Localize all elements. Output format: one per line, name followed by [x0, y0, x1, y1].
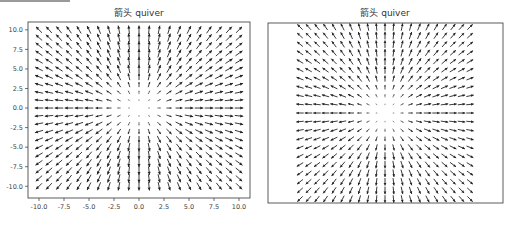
quiver-arrow [225, 99, 233, 102]
quiver-arrow [138, 115, 139, 117]
quiver-arrow [332, 179, 337, 185]
quiver-arrow [313, 103, 320, 106]
quiver-arrow [315, 24, 320, 30]
quiver-arrow [314, 162, 320, 167]
quiver-arrow [215, 137, 223, 141]
quiver-arrow [459, 188, 464, 193]
quiver-arrow [375, 161, 378, 168]
quiver-arrow [148, 73, 150, 80]
quiver-arrow [167, 65, 171, 72]
quiver-arrow [425, 50, 429, 56]
quiver-arrow [55, 115, 63, 118]
quiver-arrow [296, 103, 303, 106]
quiver-arrow [206, 58, 212, 64]
quiver-arrow [148, 166, 151, 174]
arrow-head [230, 122, 233, 125]
quiver-arrow [409, 67, 413, 73]
arrow-head [137, 148, 140, 151]
quiver-arrow [45, 122, 53, 125]
arrow-head [358, 32, 361, 35]
quiver-arrow [117, 166, 120, 174]
quiver-arrow [358, 49, 361, 56]
quiver-arrow [235, 83, 243, 86]
quiver-arrow [409, 170, 412, 177]
quiver-arrow [177, 50, 181, 57]
quiver-arrow [416, 76, 421, 81]
quiver-arrow [305, 77, 312, 80]
quiver-arrow [408, 129, 413, 132]
quiver-arrow [348, 76, 353, 81]
arrow-head [313, 112, 316, 115]
quiver-arrow [366, 153, 369, 160]
quiver-arrow [384, 178, 387, 186]
quiver-arrow [450, 171, 456, 176]
quiver-arrow [236, 160, 243, 165]
quiver-arrow [306, 171, 312, 176]
arrow-head [437, 94, 440, 97]
quiver-arrow [358, 58, 361, 65]
arrow-head [401, 58, 404, 61]
quiver-arrow [86, 58, 91, 65]
quiver-arrow [36, 51, 43, 56]
arrow-head [137, 164, 140, 167]
arrow-head [107, 34, 110, 37]
quiver-arrow [449, 103, 456, 106]
quiver-arrow [466, 103, 473, 106]
quiver-arrow [86, 137, 93, 142]
quiver-arrow [426, 179, 430, 185]
quiver-arrow [467, 59, 473, 63]
quiver-arrow [195, 83, 203, 87]
quiver-arrow [296, 138, 303, 141]
quiver-arrow [96, 74, 102, 80]
arrow-head [420, 112, 422, 114]
quiver-arrow [86, 144, 92, 150]
quiver-arrow [137, 174, 140, 183]
right-arrow-field [296, 23, 474, 203]
quiver-arrow [449, 94, 456, 97]
quiver-arrow [128, 122, 130, 125]
arrow-head [35, 99, 38, 102]
quiver-arrow [409, 32, 412, 39]
quiver-arrow [157, 122, 160, 125]
arrow-head [85, 115, 88, 118]
quiver-arrow [366, 170, 369, 177]
quiver-arrow [56, 59, 63, 64]
quiver-arrow [216, 175, 222, 181]
quiver-arrow [349, 170, 353, 177]
quiver-arrow [323, 187, 328, 193]
quiver-arrow [75, 115, 83, 118]
quiver-arrow [157, 65, 160, 73]
arrow-head [200, 107, 203, 110]
quiver-arrow [449, 137, 456, 140]
arrow-head [230, 107, 233, 110]
quiver-arrow [36, 168, 43, 173]
quiver-arrow [138, 122, 139, 125]
quiver-arrow [55, 137, 63, 141]
quiver-arrow [323, 196, 327, 202]
arrow-head [158, 156, 161, 159]
quiver-arrow [408, 112, 413, 114]
quiver-arrow [117, 182, 120, 190]
quiver-arrow [137, 65, 140, 74]
quiver-arrow [340, 170, 344, 176]
quiver-arrow [56, 34, 62, 40]
arrow-head [384, 174, 387, 177]
quiver-arrow [392, 161, 395, 168]
arrow-head [45, 91, 48, 94]
quiver-arrow [392, 32, 395, 39]
quiver-arrow [86, 152, 91, 159]
quiver-arrow [425, 59, 430, 65]
quiver-arrow [97, 42, 101, 50]
quiver-arrow [442, 50, 447, 55]
quiver-arrow [138, 73, 140, 80]
quiver-arrow [148, 99, 150, 101]
arrow-head [117, 107, 118, 108]
quiver-arrow [106, 99, 111, 101]
quiver-arrow [225, 59, 232, 64]
quiver-arrow [349, 178, 352, 185]
quiver-arrow [323, 179, 328, 185]
quiver-arrow [408, 121, 413, 123]
quiver-arrow [424, 103, 431, 106]
quiver-arrow [158, 159, 161, 167]
quiver-arrow [458, 68, 465, 72]
